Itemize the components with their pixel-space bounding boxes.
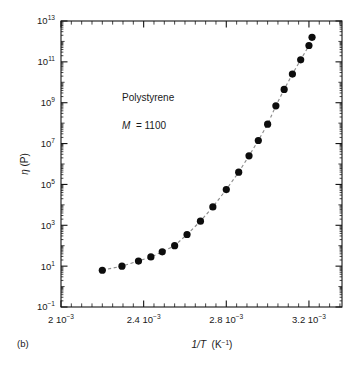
viscosity-vs-inverse-temperature-chart: 10−110110310510710910111013 2 10−32.4 10…	[0, 0, 362, 365]
y-axis-title-units: (P)	[19, 153, 30, 166]
data-point	[281, 86, 288, 93]
data-point	[289, 71, 296, 78]
data-point	[272, 102, 279, 109]
data-point	[308, 34, 315, 41]
data-point	[99, 267, 106, 274]
x-axis-title-units: (K	[212, 339, 222, 350]
annotation-material: Polystyrene	[122, 92, 175, 103]
data-point	[118, 263, 125, 270]
data-point	[235, 169, 242, 176]
data-point	[209, 203, 216, 210]
x-axis-title-main: 1/T	[192, 339, 207, 350]
svg-text:η (P): η (P)	[19, 153, 30, 175]
data-point	[171, 242, 178, 249]
data-point	[255, 137, 262, 144]
data-point	[147, 253, 154, 260]
data-point	[223, 186, 230, 193]
annotation-mw-value: = 1100	[136, 120, 167, 131]
data-point	[135, 257, 142, 264]
data-point	[297, 56, 304, 63]
figure-panel-b: 10−110110310510710910111013 2 10−32.4 10…	[0, 0, 362, 365]
data-point	[183, 231, 190, 238]
y-axis-title: η (P)	[19, 153, 30, 175]
annotation-molecular-weight: M = 1100	[122, 120, 166, 131]
data-point	[159, 248, 166, 255]
data-point	[197, 218, 204, 225]
x-axis-title-units-close: )	[229, 339, 232, 350]
data-point	[245, 152, 252, 159]
panel-label: (b)	[17, 338, 29, 349]
data-point	[264, 121, 271, 128]
data-point	[305, 42, 312, 49]
